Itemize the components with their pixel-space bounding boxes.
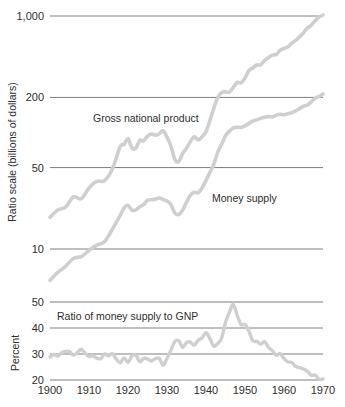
ytick-lower-30: 30	[32, 348, 44, 360]
xtick-1900: 1900	[38, 384, 62, 396]
ytick-upper-50: 50	[32, 162, 44, 174]
ytick-upper-10: 10	[32, 243, 44, 255]
xtick-1910: 1910	[77, 384, 101, 396]
ytick-upper-200: 200	[26, 91, 44, 103]
upper-panel: 1,0002005010 Gross national product Mone…	[6, 10, 323, 280]
ytick-upper-1000: 1,000	[16, 10, 44, 22]
xtick-1960: 1960	[272, 384, 296, 396]
ytick-lower-50: 50	[32, 296, 44, 308]
annotation-ratio-money-supply-to-gnp: Ratio of money supply to GNP	[57, 310, 198, 322]
annotation-money-supply: Money supply	[212, 192, 278, 204]
annotation-gross-national-product: Gross national product	[93, 112, 199, 124]
chart-figure: 1,0002005010 Gross national product Mone…	[0, 0, 345, 407]
lower-ytick-labels: 50403020	[32, 296, 44, 386]
xtick-1950: 1950	[233, 384, 257, 396]
ytick-lower-40: 40	[32, 322, 44, 334]
upper-ytick-labels: 1,0002005010	[16, 10, 44, 255]
upper-panel-y-axis-title: Ratio scale (billions of dollars)	[6, 82, 18, 221]
x-axis-tick-labels: 19001910192019301940195019601970	[38, 384, 335, 396]
xtick-1940: 1940	[194, 384, 218, 396]
lower-panel: 50403020 Ratio of money supply to GNP Pe…	[9, 296, 323, 386]
xtick-1920: 1920	[116, 384, 140, 396]
xtick-1970: 1970	[311, 384, 335, 396]
chart-canvas: 1,0002005010 Gross national product Mone…	[0, 0, 345, 407]
lower-panel-y-axis-title: Percent	[9, 335, 21, 371]
xtick-1930: 1930	[155, 384, 179, 396]
